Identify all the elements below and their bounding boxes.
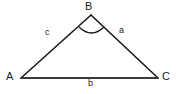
- side-c-line: [21, 15, 91, 78]
- vertex-label-b: B: [85, 1, 92, 12]
- triangle-diagram: A B C c a b: [0, 0, 180, 94]
- angle-arc-b: [79, 27, 104, 33]
- side-label-b: b: [88, 79, 93, 88]
- side-a-line: [91, 15, 158, 78]
- side-label-c: c: [45, 28, 50, 37]
- side-label-a: a: [119, 26, 124, 35]
- vertex-label-a: A: [6, 71, 13, 82]
- vertex-label-c: C: [162, 71, 170, 82]
